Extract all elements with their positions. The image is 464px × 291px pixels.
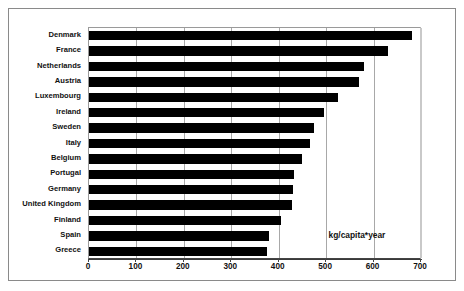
category-label-spain: Spain (60, 230, 81, 240)
bar (89, 154, 302, 163)
gridline-600 (374, 28, 375, 258)
bar (89, 31, 412, 40)
bar (89, 216, 281, 225)
category-label-belgium: Belgium (51, 153, 81, 163)
bar (89, 93, 338, 102)
bar (89, 170, 294, 179)
plot-area (88, 27, 421, 259)
category-label-germany: Germany (48, 184, 81, 194)
units-annotation: kg/capita*year (329, 230, 386, 240)
xtick-mark-300 (230, 259, 231, 262)
category-axis-labels: DenmarkFranceNetherlandsAustriaLuxembour… (9, 27, 84, 259)
bar (89, 185, 293, 194)
chart-frame: DenmarkFranceNetherlandsAustriaLuxembour… (8, 8, 456, 281)
category-label-france: France (56, 45, 81, 55)
gridline-700 (421, 28, 422, 258)
xtick-mark-500 (325, 259, 326, 262)
category-label-greece: Greece (55, 245, 81, 255)
bar (89, 123, 314, 132)
xtick-label-500: 500 (318, 262, 332, 271)
bar (89, 108, 324, 117)
category-label-luxembourg: Luxembourg (35, 91, 81, 101)
xtick-mark-600 (373, 259, 374, 262)
bar (89, 77, 359, 86)
xtick-label-400: 400 (271, 262, 285, 271)
category-label-austria: Austria (55, 76, 81, 86)
xtick-mark-100 (135, 259, 136, 262)
xtick-label-200: 200 (176, 262, 190, 271)
category-label-united-kingdom: United Kingdom (22, 199, 81, 209)
category-label-italy: Italy (66, 138, 81, 148)
bar (89, 231, 269, 240)
bar (89, 200, 292, 209)
xtick-label-100: 100 (129, 262, 143, 271)
bar (89, 247, 267, 256)
xtick-label-300: 300 (223, 262, 237, 271)
category-label-sweden: Sweden (52, 122, 81, 132)
category-label-portugal: Portugal (50, 168, 81, 178)
xtick-mark-0 (88, 259, 89, 262)
xtick-mark-700 (420, 259, 421, 262)
xtick-label-0: 0 (86, 262, 91, 271)
xtick-mark-200 (183, 259, 184, 262)
xtick-label-600: 600 (366, 262, 380, 271)
xtick-label-700: 700 (413, 262, 427, 271)
bar (89, 46, 388, 55)
xtick-mark-400 (278, 259, 279, 262)
category-label-finland: Finland (54, 215, 81, 225)
category-label-denmark: Denmark (49, 30, 82, 40)
bar (89, 139, 310, 148)
category-label-netherlands: Netherlands (37, 61, 81, 71)
category-label-ireland: Ireland (56, 107, 81, 117)
bar (89, 62, 364, 71)
